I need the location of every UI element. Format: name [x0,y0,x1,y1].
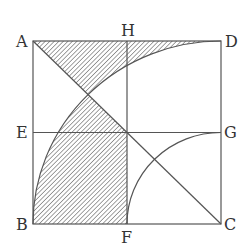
label-F: F [121,228,132,247]
label-B: B [16,215,28,234]
label-C: C [224,215,236,234]
label-G: G [224,123,237,142]
label-D: D [225,32,238,51]
label-A: A [15,32,28,51]
geometry-diagram: A H D E G B F C [0,0,248,251]
label-E: E [16,123,28,142]
label-H: H [121,21,135,40]
